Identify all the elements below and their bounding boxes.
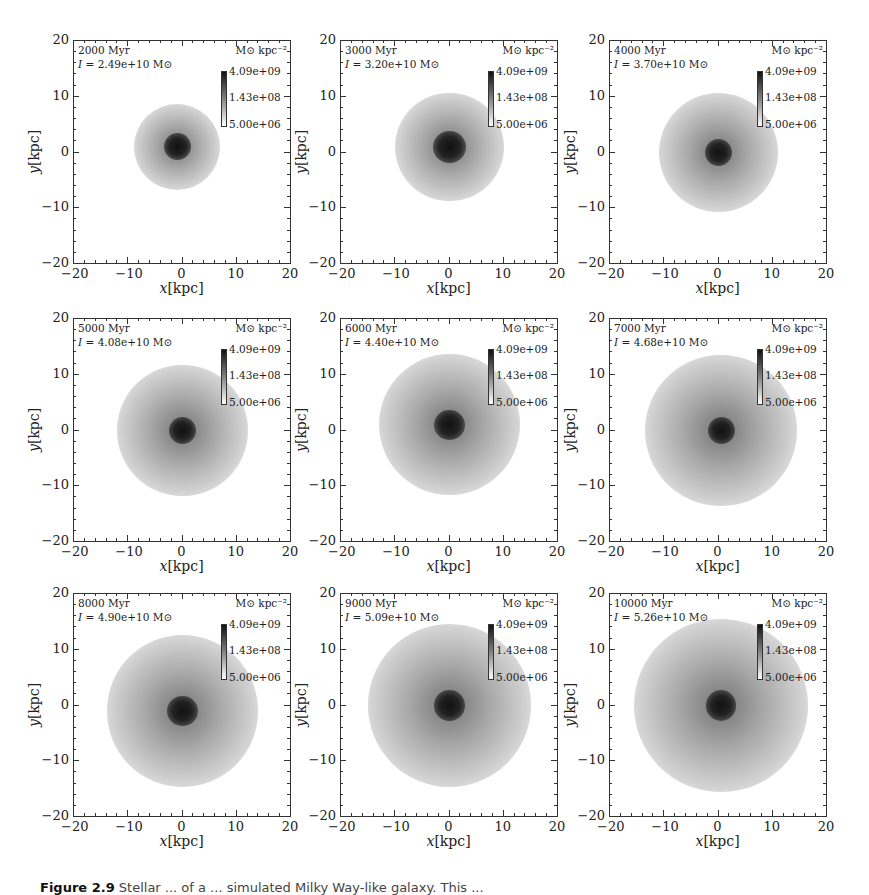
y-axis-label: y[kpc] (26, 407, 42, 451)
y-tick-mark (823, 626, 826, 627)
x-tick-mark (362, 593, 363, 596)
y-tick-mark (823, 241, 826, 242)
x-tick-mark (739, 318, 740, 321)
y-tick-mark (823, 196, 826, 197)
x-tick-mark (290, 810, 291, 816)
x-tick-mark (546, 318, 547, 321)
colorbar-tick-min: 5.00e+06 (229, 118, 281, 130)
x-tick-mark (514, 260, 515, 263)
y-tick-mark (551, 541, 557, 542)
y-tick-mark (823, 716, 826, 717)
colorbar (757, 349, 763, 405)
y-tick-mark (554, 794, 557, 795)
y-tick-mark (823, 530, 826, 531)
y-tick-mark (609, 174, 612, 175)
y-tick-mark (609, 671, 612, 672)
colorbar-tick-mid: 1.43e+08 (765, 91, 817, 103)
y-tick-mark (609, 385, 612, 386)
y-tick-label: −10 (306, 477, 336, 492)
x-tick-mark (620, 40, 621, 43)
x-tick-mark (214, 813, 215, 816)
x-tick-mark (106, 813, 107, 816)
x-tick-mark (427, 40, 428, 43)
x-tick-mark (728, 813, 729, 816)
y-tick-mark (551, 649, 557, 650)
x-tick-mark (84, 260, 85, 263)
x-tick-mark (116, 260, 117, 263)
colorbar-tick-mid: 1.43e+08 (496, 644, 548, 656)
y-tick-mark (73, 218, 76, 219)
y-tick-mark (284, 152, 290, 153)
x-tick-mark (203, 318, 204, 321)
x-tick-mark (524, 593, 525, 596)
y-tick-mark (554, 85, 557, 86)
x-tick-mark (279, 40, 280, 43)
x-tick-mark (459, 813, 460, 816)
x-tick-mark (192, 40, 193, 43)
x-tick-mark (685, 538, 686, 541)
colorbar (221, 71, 227, 127)
y-tick-mark (823, 727, 826, 728)
x-tick-mark (663, 257, 664, 263)
y-tick-label: −20 (306, 255, 336, 270)
x-tick-mark (728, 318, 729, 321)
x-tick-mark (503, 318, 504, 324)
x-tick-label: −10 (382, 544, 406, 559)
y-tick-mark (73, 40, 79, 41)
y-tick-label: −20 (575, 808, 605, 823)
y-tick-mark (823, 107, 826, 108)
y-tick-mark (554, 252, 557, 253)
x-tick-mark (642, 40, 643, 43)
x-tick-mark (383, 593, 384, 596)
x-tick-mark (739, 813, 740, 816)
x-tick-mark (182, 257, 183, 263)
y-tick-mark (284, 374, 290, 375)
x-tick-mark (815, 40, 816, 43)
x-tick-mark (750, 538, 751, 541)
y-tick-mark (340, 418, 343, 419)
y-tick-mark (554, 508, 557, 509)
y-tick-mark (340, 196, 343, 197)
x-tick-mark (373, 813, 374, 816)
y-tick-mark (609, 615, 612, 616)
y-tick-mark (609, 530, 612, 531)
x-tick-mark (718, 40, 719, 46)
x-tick-label: −10 (651, 544, 675, 559)
y-tick-label: 20 (575, 310, 605, 325)
x-tick-mark (524, 40, 525, 43)
x-tick-mark (362, 318, 363, 321)
colorbar-tick-mid: 1.43e+08 (229, 91, 281, 103)
y-tick-label: 0 (306, 422, 336, 437)
y-tick-mark (609, 452, 612, 453)
y-tick-label: −10 (306, 752, 336, 767)
y-tick-mark (554, 771, 557, 772)
mass-value: = 4.68e+10 M⊙ (618, 336, 708, 348)
y-tick-mark (340, 363, 343, 364)
x-tick-mark (535, 260, 536, 263)
x-axis-label: x[kpc] (696, 833, 740, 849)
x-tick-mark (804, 593, 805, 596)
x-tick-mark (793, 318, 794, 321)
y-tick-mark (820, 207, 826, 208)
y-tick-mark (340, 485, 346, 486)
y-tick-mark (340, 794, 343, 795)
galactic-core (169, 417, 196, 444)
x-tick-mark (95, 318, 96, 321)
x-tick-label: 0 (437, 544, 461, 559)
x-tick-mark (804, 813, 805, 816)
x-axis-label: x[kpc] (427, 558, 471, 574)
x-tick-mark (685, 813, 686, 816)
y-tick-mark (340, 185, 343, 186)
y-tick-mark (73, 749, 76, 750)
x-tick-mark (127, 40, 128, 46)
x-tick-mark (405, 40, 406, 43)
galactic-core (706, 690, 736, 720)
y-tick-mark (73, 107, 76, 108)
x-tick-mark (373, 40, 374, 43)
x-tick-mark (783, 260, 784, 263)
y-tick-mark (823, 682, 826, 683)
x-tick-mark (503, 257, 504, 263)
x-tick-mark (290, 257, 291, 263)
y-tick-mark (820, 760, 826, 761)
y-tick-mark (609, 374, 615, 375)
